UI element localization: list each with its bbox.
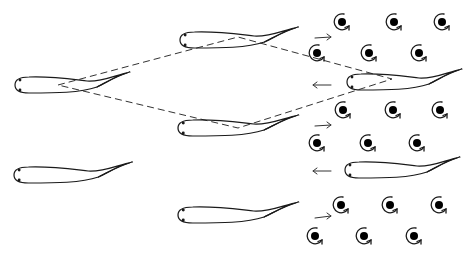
vortex-icon <box>335 102 350 118</box>
fish-middle-bottom <box>178 202 299 223</box>
vortex-icon <box>307 228 322 244</box>
flow-arrow-left-icon <box>313 168 331 174</box>
vortex-icon <box>431 197 446 213</box>
vortex-icon <box>409 135 424 151</box>
fish-left-lower <box>14 162 132 183</box>
vortex-icon <box>382 197 397 213</box>
vortex-icon <box>406 228 421 244</box>
flow-arrow-right-icon <box>315 122 331 128</box>
flow-arrow-left-icon <box>313 82 331 88</box>
dashed-diamond-outline <box>58 37 392 128</box>
vortex-icon <box>360 135 375 151</box>
fish-right-upper <box>347 69 462 90</box>
fish-right-lower <box>345 157 460 178</box>
vortex-street <box>307 14 449 244</box>
vortex-icon <box>432 102 447 118</box>
vortex-icon <box>333 197 348 213</box>
vortex-icon <box>356 228 371 244</box>
fish-left-upper <box>15 72 130 93</box>
vortex-icon <box>386 14 401 30</box>
vortex-icon <box>434 14 449 30</box>
vortex-icon <box>361 45 376 61</box>
flow-arrow-right-icon <box>315 34 331 40</box>
vortex-icon <box>334 14 349 30</box>
vortex-icon <box>411 45 426 61</box>
vortex-icon <box>385 102 400 118</box>
vortex-icon <box>309 135 324 151</box>
fish-school-vortex-diagram <box>0 0 473 255</box>
flow-arrow-right-icon <box>315 213 331 219</box>
